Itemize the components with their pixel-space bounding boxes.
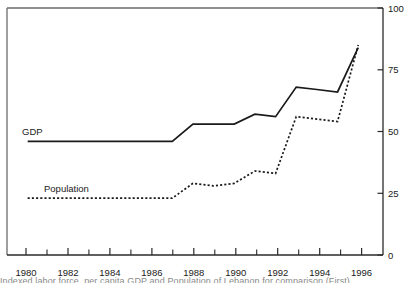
y-axis-tick-labels: 0 25 50 75 100 <box>388 3 404 261</box>
cropped-footer-caption: Indexed labor force, per capita GDP and … <box>0 277 407 283</box>
chart-figure: 0 25 50 75 100 <box>0 0 407 283</box>
plot-frame <box>7 8 383 255</box>
y-tick-label-100: 100 <box>388 3 404 14</box>
y-tick-label-25: 25 <box>388 188 399 199</box>
series-label-gdp: GDP <box>22 126 43 137</box>
cropped-footer-caption-text: Indexed labor force, per capita GDP and … <box>0 277 407 283</box>
line-chart-canvas: 0 25 50 75 100 <box>0 0 407 283</box>
series-line-population <box>28 45 359 198</box>
y-tick-label-50: 50 <box>388 126 399 137</box>
x-axis-major-ticks <box>26 248 362 255</box>
series-inline-labels: GDP Population <box>22 126 89 194</box>
series-label-population: Population <box>44 183 89 194</box>
y-tick-label-75: 75 <box>388 64 399 75</box>
y-axis-ticks <box>378 8 384 255</box>
y-tick-label-0: 0 <box>388 250 393 261</box>
series-lines <box>28 45 359 198</box>
series-line-gdp <box>28 48 359 142</box>
